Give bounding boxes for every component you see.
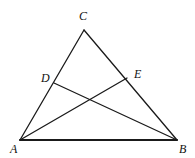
vertex-label-c: C — [79, 10, 87, 22]
vertex-label-a: A — [10, 143, 17, 155]
segment-cb — [84, 30, 177, 140]
geometry-figure: C D E A B — [0, 0, 195, 158]
vertex-label-d: D — [41, 72, 50, 84]
vertex-label-b: B — [179, 143, 186, 155]
geometry-svg — [0, 0, 195, 158]
segment-ac — [20, 30, 84, 140]
vertex-label-e: E — [134, 68, 141, 80]
segment-db — [54, 83, 177, 140]
